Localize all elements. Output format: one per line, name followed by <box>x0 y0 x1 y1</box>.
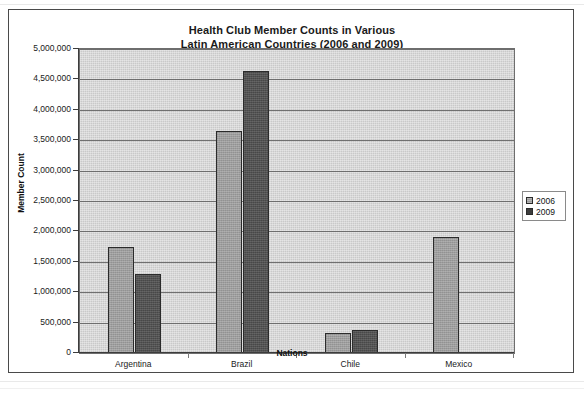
gridline <box>80 201 514 202</box>
y-axis-tick-label: 2,000,000 <box>13 225 71 235</box>
y-axis-tick-label: 3,000,000 <box>13 165 71 175</box>
y-axis-tick-label: 5,000,000 <box>13 43 71 53</box>
legend-label-2009: 2009 <box>536 207 555 217</box>
legend-label-2006: 2006 <box>536 196 555 206</box>
y-axis-tick-label: 2,500,000 <box>13 195 71 205</box>
y-axis-tick <box>73 322 79 323</box>
y-axis-tick <box>73 291 79 292</box>
legend-swatch-2006 <box>526 197 533 204</box>
y-axis-tick <box>73 109 79 110</box>
chart-figure-frame: Health Club Member Counts in Various Lat… <box>8 9 574 373</box>
x-axis-label-brazil: Brazil <box>202 359 282 369</box>
y-axis-tick-labels: 5,000,0004,500,0004,000,0003,500,0003,00… <box>9 48 71 352</box>
chart-legend: 20062009 <box>522 191 566 221</box>
bar-mexico-2006 <box>433 237 459 353</box>
plot-area <box>79 48 515 354</box>
y-axis-tick-label: 3,500,000 <box>13 134 71 144</box>
gridline <box>80 171 514 172</box>
chart-title: Health Club Member Counts in Various Lat… <box>9 23 575 51</box>
legend-swatch-2009 <box>526 208 533 215</box>
chart-title-line-1: Health Club Member Counts in Various <box>9 23 575 37</box>
y-axis-tick <box>73 78 79 79</box>
y-axis-tick-label: 1,500,000 <box>13 256 71 266</box>
bar-brazil-2009 <box>243 71 269 353</box>
gridline <box>80 79 514 80</box>
x-axis-label-chile: Chile <box>310 359 390 369</box>
y-axis-tick <box>73 170 79 171</box>
gridline <box>80 110 514 111</box>
scan-artifact-bottom <box>0 381 584 382</box>
scan-artifact-top <box>0 4 584 5</box>
gridline <box>80 49 514 50</box>
legend-item-2009[interactable]: 2009 <box>526 206 562 217</box>
bar-argentina-2009 <box>135 274 161 353</box>
gridline <box>80 140 514 141</box>
bar-brazil-2006 <box>216 131 242 353</box>
y-axis-tick-label: 500,000 <box>13 317 71 327</box>
bar-argentina-2006 <box>108 247 134 353</box>
y-axis-tick <box>73 48 79 49</box>
y-axis-tick <box>73 352 79 353</box>
scan-artifact-bottom-2 <box>0 388 584 389</box>
x-axis-label-argentina: Argentina <box>93 359 173 369</box>
y-axis-tick <box>73 139 79 140</box>
y-axis-tick-label: 1,000,000 <box>13 286 71 296</box>
y-axis-tick <box>73 200 79 201</box>
y-axis-tick <box>73 261 79 262</box>
x-axis-label-mexico: Mexico <box>419 359 499 369</box>
y-axis-tick-label: 4,500,000 <box>13 73 71 83</box>
gridline <box>80 231 514 232</box>
y-axis-tick <box>73 230 79 231</box>
legend-item-2006[interactable]: 2006 <box>526 195 562 206</box>
x-axis-title: Nations <box>9 348 575 358</box>
y-axis-tick-label: 4,000,000 <box>13 104 71 114</box>
